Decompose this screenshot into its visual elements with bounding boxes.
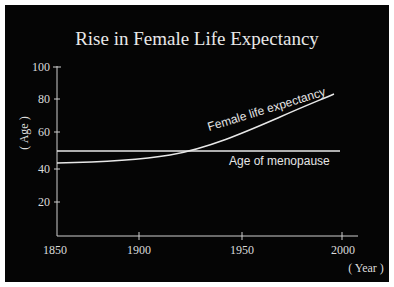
x-tick-label: 1950	[230, 243, 254, 257]
y-tick-label: 60	[38, 125, 50, 139]
y-tick-label: 40	[38, 162, 50, 176]
y-tick-label: 20	[38, 195, 50, 209]
x-tick-label: 1900	[127, 243, 151, 257]
y-tick-label: 100	[32, 60, 50, 74]
x-tick-label: 1850	[43, 243, 67, 257]
y-tick-label: 80	[38, 92, 50, 106]
series-label-life-expectancy: Female life expectancy	[206, 85, 327, 134]
series-label-menopause: Age of menopause	[229, 154, 330, 168]
y-axis-title: ( Age )	[17, 116, 31, 149]
x-tick-label: 2000	[331, 243, 355, 257]
x-axis-title: ( Year )	[348, 261, 384, 275]
chart-canvas: 100 80 60 40 20 1850 1900 1950 2000 ( Ye…	[0, 0, 394, 287]
